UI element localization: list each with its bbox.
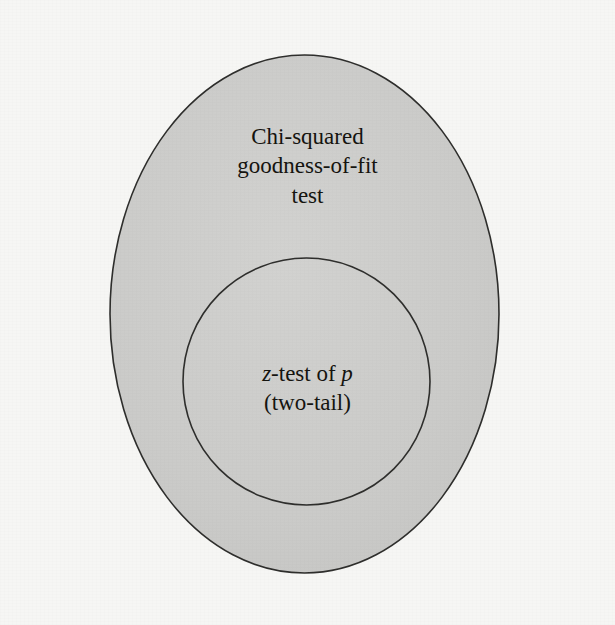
outer-set-label-line-1: Chi-squared xyxy=(0,122,615,151)
outer-set-label-line-2: goodness-of-fit xyxy=(0,151,615,180)
outer-set-label: Chi-squared goodness-of-fit test xyxy=(0,122,615,210)
figure-canvas: Chi-squared goodness-of-fit test z-test … xyxy=(0,0,615,625)
outer-set-label-line-3: test xyxy=(0,181,615,210)
statistic-symbol-z: z xyxy=(262,361,271,386)
venn-diagram-svg xyxy=(0,0,615,625)
inner-set-label: z-test of p (two-tail) xyxy=(0,359,615,418)
inner-set-label-line-1-text: -test of xyxy=(271,361,341,386)
inner-set-label-line-1: z-test of p xyxy=(0,359,615,388)
inner-set-label-line-2: (two-tail) xyxy=(0,388,615,417)
parameter-symbol-p: p xyxy=(341,361,353,386)
